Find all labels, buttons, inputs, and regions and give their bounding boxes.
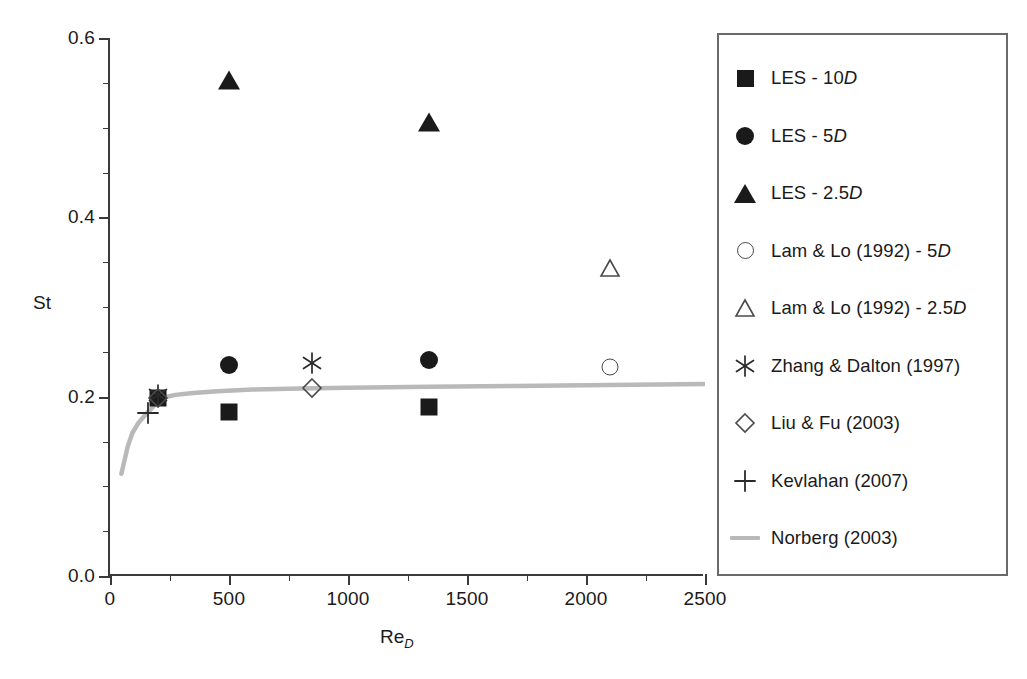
- y-axis-tick: [99, 38, 110, 40]
- legend-item-label: LES - 2.5D: [771, 182, 863, 204]
- legend-circle-open-icon: [737, 242, 754, 259]
- y-axis-minor-tick: [103, 307, 110, 308]
- x-axis-tick-label: 0: [105, 588, 116, 610]
- legend-item-label-italic: D: [849, 182, 862, 203]
- legend-asterisk-icon: [733, 354, 757, 378]
- y-axis-tick: [99, 397, 110, 399]
- x-axis-tick: [586, 574, 588, 585]
- legend-plus-icon: [733, 469, 757, 493]
- legend-square-filled-icon: [737, 70, 754, 87]
- legend-item[interactable]: LES - 10D: [719, 63, 1006, 93]
- legend-triangle-filled-icon: [734, 184, 756, 203]
- x-axis-tick-label: 500: [213, 588, 245, 610]
- legend-item[interactable]: LES - 5D: [719, 121, 1006, 151]
- data-point-diamond-open: [301, 377, 323, 399]
- plot-area: 0.00.20.40.605001000150020002500: [108, 38, 703, 576]
- legend-item-label: LES - 10D: [771, 67, 857, 89]
- legend-item-label: LES - 5D: [771, 125, 847, 147]
- y-axis-tick-label: 0.4: [68, 206, 95, 228]
- data-point-triangle-open: [599, 258, 621, 278]
- legend-marker-cell: [719, 121, 771, 151]
- y-axis-tick-label: 0.0: [68, 565, 95, 587]
- legend-marker-cell: [719, 351, 771, 381]
- data-point-circle-open: [601, 359, 618, 376]
- x-axis-minor-tick: [289, 574, 290, 581]
- y-axis-minor-tick: [103, 486, 110, 487]
- y-axis-minor-tick: [103, 531, 110, 532]
- data-point-circle-filled: [420, 351, 438, 369]
- x-axis-tick: [110, 574, 112, 585]
- legend-item-label-italic: D: [953, 297, 966, 318]
- y-axis-minor-tick: [103, 352, 110, 353]
- legend-item-label-italic: D: [844, 67, 857, 88]
- legend-item-label-italic: D: [937, 240, 950, 261]
- x-axis-tick-label: 1000: [326, 588, 369, 610]
- legend-item[interactable]: Norberg (2003): [719, 523, 1006, 553]
- legend-item-label: Lam & Lo (1992) - 2.5D: [771, 297, 967, 319]
- legend-line-icon: [730, 536, 760, 540]
- data-point-asterisk: [300, 351, 324, 375]
- x-axis-tick-label: 2000: [564, 588, 607, 610]
- legend-item-label: Norberg (2003): [771, 527, 898, 549]
- legend-marker-cell: [719, 63, 771, 93]
- legend-item[interactable]: Kevlahan (2007): [719, 466, 1006, 496]
- legend-item[interactable]: Liu & Fu (2003): [719, 408, 1006, 438]
- norberg-curve-path: [121, 384, 705, 474]
- y-axis-tick: [99, 217, 110, 219]
- x-axis-tick: [467, 574, 469, 585]
- x-axis-tick: [229, 574, 231, 585]
- x-axis-tick-label: 2500: [683, 588, 726, 610]
- legend-item[interactable]: LES - 2.5D: [719, 178, 1006, 208]
- legend-marker-cell: [719, 523, 771, 553]
- x-axis-tick-label: 1500: [445, 588, 488, 610]
- legend-diamond-open-icon: [734, 412, 756, 434]
- data-point-plus: [136, 401, 160, 425]
- y-axis-tick-label: 0.6: [68, 27, 95, 49]
- legend-item-label: Liu & Fu (2003): [771, 412, 900, 434]
- x-axis-tick: [705, 574, 707, 585]
- norberg-curve: [110, 38, 705, 576]
- legend-item-label: Lam & Lo (1992) - 5D: [771, 240, 951, 262]
- strouhal-reynolds-scatter-figure: St ReD 0.00.20.40.605001000150020002500 …: [0, 0, 1027, 679]
- y-axis-minor-tick: [103, 442, 110, 443]
- legend-item[interactable]: Lam & Lo (1992) - 2.5D: [719, 293, 1006, 323]
- legend-marker-cell: [719, 293, 771, 323]
- y-axis-tick: [99, 576, 110, 578]
- y-axis-minor-tick: [103, 83, 110, 84]
- legend-item-label: Kevlahan (2007): [771, 470, 908, 492]
- legend-item[interactable]: Lam & Lo (1992) - 5D: [719, 236, 1006, 266]
- data-point-square-filled: [221, 403, 238, 420]
- legend-marker-cell: [719, 466, 771, 496]
- legend-circle-filled-icon: [736, 127, 754, 145]
- x-axis-minor-tick: [646, 574, 647, 581]
- y-axis-minor-tick: [103, 262, 110, 263]
- data-point-triangle-filled: [418, 113, 440, 132]
- x-axis-title-subscript: D: [404, 636, 413, 651]
- x-axis-title-base: Re: [380, 626, 404, 647]
- x-axis-tick: [348, 574, 350, 585]
- y-axis-tick-label: 0.2: [68, 386, 95, 408]
- x-axis-minor-tick: [527, 574, 528, 581]
- x-axis-title: ReD: [380, 626, 414, 651]
- legend-triangle-open-icon: [734, 298, 756, 318]
- x-axis-minor-tick: [408, 574, 409, 581]
- data-point-circle-filled: [220, 356, 238, 374]
- y-axis-minor-tick: [103, 128, 110, 129]
- legend-marker-cell: [719, 178, 771, 208]
- x-axis-minor-tick: [170, 574, 171, 581]
- y-axis-title: St: [33, 292, 51, 314]
- legend-item-label: Zhang & Dalton (1997): [771, 355, 960, 377]
- data-point-square-filled: [420, 398, 437, 415]
- data-point-triangle-filled: [218, 71, 240, 90]
- y-axis-minor-tick: [103, 173, 110, 174]
- legend-marker-cell: [719, 236, 771, 266]
- legend-item[interactable]: Zhang & Dalton (1997): [719, 351, 1006, 381]
- legend-marker-cell: [719, 408, 771, 438]
- legend: LES - 10DLES - 5DLES - 2.5DLam & Lo (199…: [717, 33, 1008, 576]
- legend-item-label-italic: D: [833, 125, 846, 146]
